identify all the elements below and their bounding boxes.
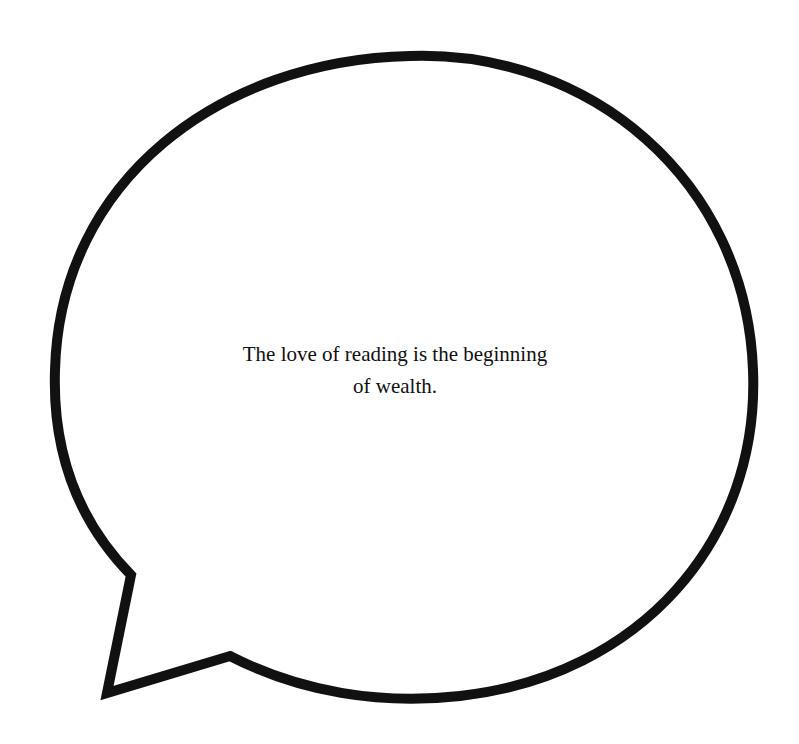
quote-line-1: The love of reading is the beginning	[150, 338, 640, 370]
quote-text: The love of reading is the beginning of …	[150, 338, 640, 402]
quote-line-2: of wealth.	[150, 370, 640, 402]
